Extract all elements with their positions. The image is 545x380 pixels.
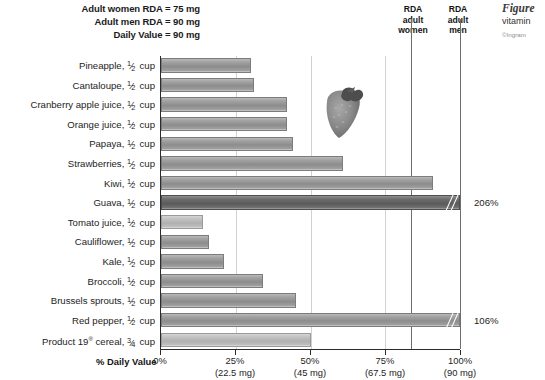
bar-label-product-19-cereal: Product 19® cereal, 3⁄4 cup [0,330,155,353]
bar-label-kale: Kale, 1⁄2 cup [0,252,155,273]
bar-label-pineapple: Pineapple, 1⁄2 cup [0,56,155,77]
bar-kale [161,254,224,268]
bar-tomato-juice [161,215,203,229]
plot-area: Pineapple, 1⁄2 cupCantaloupe, 1⁄2 cupCra… [160,56,460,350]
bar-label-tomato-juice: Tomato juice, 1⁄2 cup [0,213,155,234]
rda-note-women: Adult women RDA = 75 mg [0,3,200,16]
bar-row-broccoli: Broccoli, 1⁄2 cup [161,272,460,292]
bar-cauliflower [161,235,209,249]
bar-label-strawberries: Strawberries, 1⁄2 cup [0,154,155,175]
bar-kiwi [161,176,433,190]
bar-row-cauliflower: Cauliflower, 1⁄2 cup [161,232,460,252]
figure-caption: Figure vitamin ©Ingram [502,2,545,38]
bar-label-cantaloupe: Cantaloupe, 1⁄2 cup [0,76,155,97]
x-axis-title: % Daily Value [96,356,156,367]
bar-strawberries [161,156,343,170]
rda-women-line2: adult [390,15,436,26]
rda-women-line1: RDA [390,4,436,15]
bar-label-broccoli: Broccoli, 1⁄2 cup [0,272,155,293]
bar-row-kiwi: Kiwi, 1⁄2 cup [161,174,460,194]
bar-row-product-19-cereal: Product 19® cereal, 3⁄4 cup [161,330,460,350]
rda-men-line1: RDA [435,4,481,15]
bar-product-19-cereal [161,333,311,347]
figure-subtitle: vitamin [502,15,545,27]
bar-broccoli [161,274,263,288]
rda-men-line3: men [435,25,481,36]
rda-reference-notes: Adult women RDA = 75 mg Adult men RDA = … [0,3,200,41]
rda-men-marker-label: RDA adult men [435,4,481,36]
bar-row-cranberry-apple-juice: Cranberry apple juice, 1⁄2 cup [161,95,460,115]
rda-men-line [460,19,461,349]
bar-brussels-sprouts [161,293,296,307]
bar-orange-juice [161,117,287,131]
vitamin-c-bar-chart: Adult women RDA = 75 mg Adult men RDA = … [0,0,545,380]
bar-row-kale: Kale, 1⁄2 cup [161,252,460,272]
rda-women-marker-label: RDA adult women [390,4,436,36]
bar-papaya [161,137,293,151]
figure-number: Figure [502,2,545,15]
rda-note-men: Adult men RDA = 90 mg [0,16,200,29]
bar-row-red-pepper: Red pepper, 1⁄2 cup106% [161,311,460,331]
bar-label-guava: Guava, 1⁄2 cup [0,193,155,214]
bar-red-pepper [161,313,460,327]
bar-row-orange-juice: Orange juice, 1⁄2 cup [161,115,460,135]
photo-credit: ©Ingram [502,31,545,38]
xtick-label-25: 25% (22.5 mg) [200,355,270,378]
bar-label-cauliflower: Cauliflower, 1⁄2 cup [0,232,155,253]
bar-label-red-pepper: Red pepper, 1⁄2 cup [0,311,155,332]
bar-label-orange-juice: Orange juice, 1⁄2 cup [0,115,155,136]
bar-row-tomato-juice: Tomato juice, 1⁄2 cup [161,213,460,233]
bar-row-pineapple: Pineapple, 1⁄2 cup [161,56,460,76]
xtick-label-75: 75% (67.5 mg) [350,355,420,378]
bar-cantaloupe [161,78,254,92]
rda-men-line2: adult [435,15,481,26]
rda-women-line3: women [390,25,436,36]
bar-guava [161,195,460,209]
xtick-label-50: 50% (45 mg) [275,355,345,378]
bar-label-papaya: Papaya, 1⁄2 cup [0,134,155,155]
bar-cranberry-apple-juice [161,97,287,111]
bar-label-kiwi: Kiwi, 1⁄2 cup [0,174,155,195]
bar-row-guava: Guava, 1⁄2 cup206% [161,193,460,213]
bar-row-brussels-sprouts: Brussels sprouts, 1⁄2 cup [161,291,460,311]
bar-row-papaya: Papaya, 1⁄2 cup [161,134,460,154]
bar-row-strawberries: Strawberries, 1⁄2 cup [161,154,460,174]
overflow-value-guava: 206% [474,193,499,213]
bar-pineapple [161,58,251,72]
bar-label-cranberry-apple-juice: Cranberry apple juice, 1⁄2 cup [0,95,155,116]
overflow-value-red-pepper: 106% [474,311,499,331]
daily-value-note: Daily Value = 90 mg [0,29,200,42]
xtick-label-100: 100% (90 mg) [425,355,495,378]
bar-label-brussels-sprouts: Brussels sprouts, 1⁄2 cup [0,291,155,312]
bar-row-cantaloupe: Cantaloupe, 1⁄2 cup [161,76,460,96]
